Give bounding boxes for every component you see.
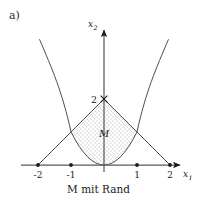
coordinate-plot: -2 -1 1 2 2 M x 1 x 2 [0,0,197,204]
tick-label-minus2: -2 [34,170,43,180]
tick-label-minus1: -1 [67,170,76,180]
region-label-m: M [98,128,110,139]
svg-text:x: x [183,169,188,179]
tick-dot-minus1 [69,163,73,167]
svg-text:x: x [88,19,93,29]
tick-label-y-2: 2 [91,94,97,105]
tick-label-plus2: 2 [167,170,173,180]
tick-dot-plus1 [135,163,139,167]
figure-caption: M mit Rand [0,184,197,195]
svg-text:1: 1 [189,174,193,181]
tick-dot-plus2 [168,163,172,167]
figure-container: a) [0,0,197,204]
svg-text:2: 2 [93,24,98,31]
x-axis-label: x 1 [183,169,192,181]
tick-label-plus1: 1 [134,170,140,180]
tick-dot-minus2 [36,163,40,167]
y-axis-label: x 2 [88,19,98,31]
